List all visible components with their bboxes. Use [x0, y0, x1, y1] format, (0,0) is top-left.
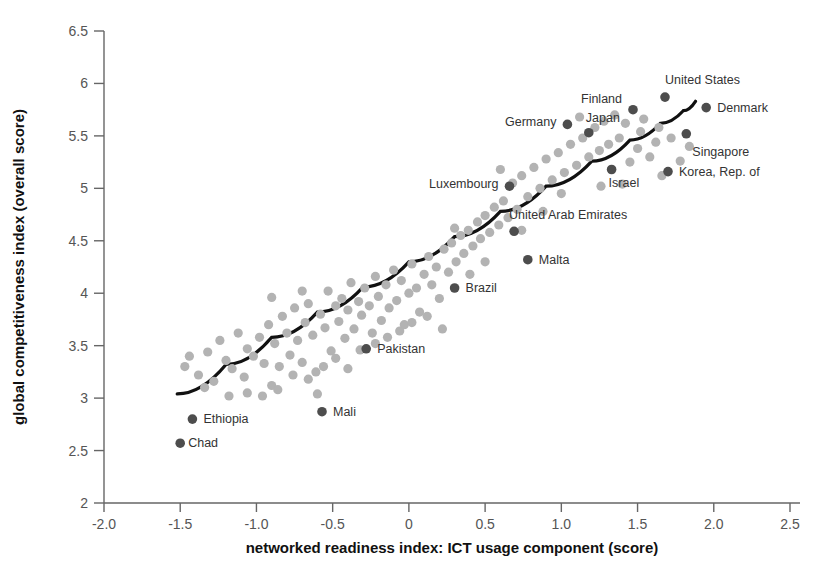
data-point [499, 196, 508, 205]
data-point [293, 336, 302, 345]
data-point [365, 301, 374, 310]
x-tick-label: 1.0 [552, 516, 572, 532]
y-tick-label: 2 [80, 495, 88, 511]
data-point [180, 362, 189, 371]
data-point [517, 171, 526, 180]
data-point [542, 154, 551, 163]
data-point [595, 146, 604, 155]
data-point-label: Korea, Rep. of [679, 165, 760, 179]
data-point [228, 364, 237, 373]
data-point-label: United Arab Emirates [509, 208, 627, 222]
data-point [575, 112, 584, 121]
data-point-labeled [361, 344, 371, 354]
data-point [667, 133, 676, 142]
data-point [334, 317, 343, 326]
data-point [264, 320, 273, 329]
data-point [320, 323, 329, 332]
data-point [397, 276, 406, 285]
data-point [447, 238, 456, 247]
data-point [407, 259, 416, 268]
data-point [243, 344, 252, 353]
data-point [572, 161, 581, 170]
trend-line-group [177, 101, 695, 394]
data-point [278, 312, 287, 321]
data-point [389, 266, 398, 275]
data-point [313, 389, 322, 398]
data-point-label: Mali [333, 405, 356, 419]
data-point [485, 228, 494, 237]
data-point [468, 241, 477, 250]
data-point [615, 133, 624, 142]
data-point [288, 370, 297, 379]
data-point [275, 362, 284, 371]
data-point [407, 318, 416, 327]
x-tick-label: 1.5 [628, 516, 648, 532]
data-point [221, 356, 230, 365]
data-point-label: Pakistan [377, 342, 425, 356]
data-point [357, 311, 366, 320]
data-point-label: United States [665, 73, 740, 87]
data-point [604, 140, 613, 149]
data-point [548, 175, 557, 184]
y-tick-label: 3.5 [69, 338, 89, 354]
data-point [267, 293, 276, 302]
data-point-label: Malta [539, 253, 570, 267]
data-point-labeled [188, 414, 198, 424]
data-point-labeled [175, 438, 185, 448]
data-point [331, 354, 340, 363]
data-point [360, 283, 369, 292]
data-point [490, 203, 499, 212]
data-point [535, 184, 544, 193]
y-axis-ticks: 22.533.544.555.566.5 [69, 23, 104, 511]
data-point [465, 270, 474, 279]
data-point-labeled [317, 407, 327, 417]
x-tick-label: 2.0 [704, 516, 724, 532]
data-point [452, 257, 461, 266]
data-point [625, 158, 634, 167]
x-tick-label: 0 [405, 516, 413, 532]
x-tick-label: -2.0 [92, 516, 116, 532]
scatter-plot: 22.533.544.555.566.5 -2.0-1.5-1.0-0.500.… [0, 0, 817, 583]
data-point [432, 262, 441, 271]
data-point [185, 352, 194, 361]
data-point-labeled [607, 165, 617, 175]
data-point [560, 168, 569, 177]
data-point [481, 211, 490, 220]
data-point [404, 289, 413, 298]
data-point-label: Singapore [692, 145, 749, 159]
data-point-label: Brazil [466, 281, 497, 295]
data-point [349, 324, 358, 333]
data-point [566, 140, 575, 149]
data-point [412, 283, 421, 292]
data-point [308, 331, 317, 340]
data-point [645, 152, 654, 161]
data-point [633, 144, 642, 153]
data-point [285, 351, 294, 360]
data-point [215, 336, 224, 345]
data-point [381, 280, 390, 289]
data-point [494, 220, 503, 229]
data-point [438, 324, 447, 333]
data-point [450, 224, 459, 233]
data-point [636, 127, 645, 136]
data-point-label: Finland [581, 92, 622, 106]
data-point [473, 217, 482, 226]
x-tick-label: 0.5 [475, 516, 495, 532]
data-point [255, 333, 264, 342]
data-point [654, 123, 663, 132]
data-point [435, 294, 444, 303]
y-tick-label: 5 [80, 180, 88, 196]
y-tick-label: 4 [80, 285, 88, 301]
data-point [346, 278, 355, 287]
data-point [439, 245, 448, 254]
data-point [459, 249, 468, 258]
data-point [385, 303, 394, 312]
data-point-label: Chad [188, 436, 218, 450]
data-point [639, 115, 648, 124]
data-point-labeled [584, 128, 594, 138]
data-point [523, 192, 532, 201]
y-tick-label: 6.5 [69, 23, 89, 39]
data-point [374, 292, 383, 301]
data-point [476, 234, 485, 243]
data-point [316, 310, 325, 319]
